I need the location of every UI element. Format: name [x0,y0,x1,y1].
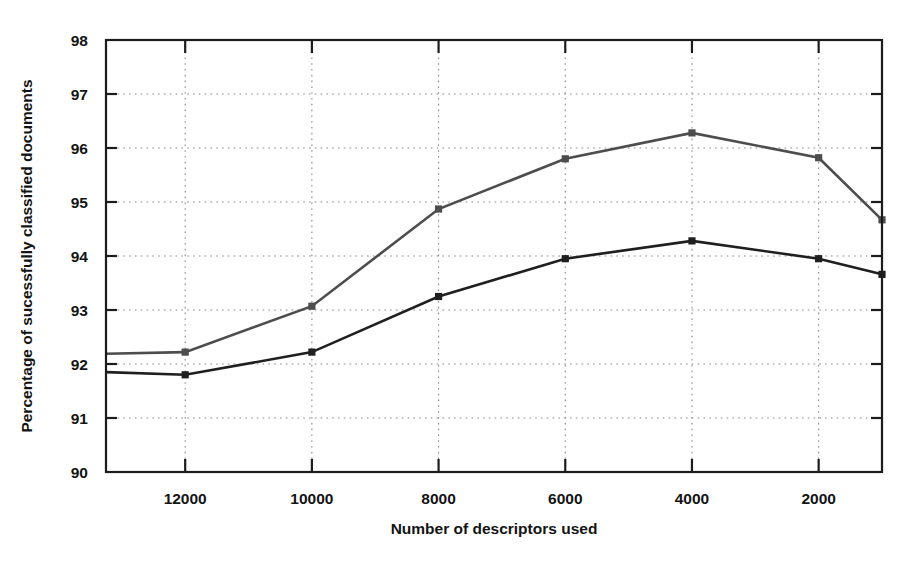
data-point-marker [688,129,695,136]
y-tick-label: 93 [71,302,89,319]
y-tick-label: 91 [71,410,89,427]
data-point-marker [308,303,315,310]
y-axis-tick-labels: 909192939495969798 [71,32,89,481]
y-tick-label: 96 [71,140,89,157]
chart-background [0,0,918,562]
data-point-marker [182,349,189,356]
y-axis-title: Percentage of sucessfully classified doc… [18,79,35,432]
y-tick-label: 95 [71,194,89,211]
data-point-marker [815,255,822,262]
chart-figure: 909192939495969798 120001000080006000400… [0,0,918,562]
x-tick-label: 10000 [290,490,333,507]
x-tick-label: 8000 [421,490,455,507]
data-point-marker [435,205,442,212]
x-tick-label: 4000 [675,490,709,507]
x-axis-title: Number of descriptors used [391,520,598,537]
y-tick-label: 92 [71,356,88,373]
x-tick-label: 12000 [164,490,207,507]
x-tick-label: 6000 [548,490,582,507]
data-point-marker [688,237,695,244]
y-tick-label: 90 [71,464,88,481]
line-chart: 909192939495969798 120001000080006000400… [0,0,918,562]
y-tick-label: 94 [71,248,89,265]
data-point-marker [562,155,569,162]
data-point-marker [562,255,569,262]
data-point-marker [815,154,822,161]
x-tick-label: 2000 [801,490,835,507]
y-tick-label: 97 [71,86,88,103]
y-tick-label: 98 [71,32,89,49]
data-point-marker [308,349,315,356]
data-point-marker [182,371,189,378]
data-point-marker [435,293,442,300]
